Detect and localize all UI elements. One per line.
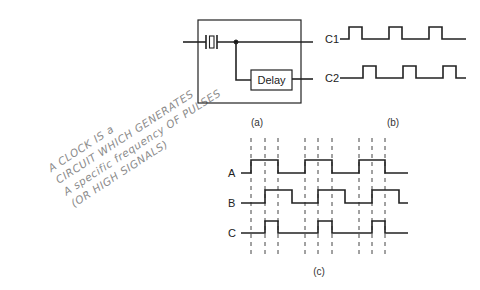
b-waveform [241, 190, 408, 203]
delay-label: Delay [257, 74, 286, 86]
a-label: A [228, 167, 236, 179]
c1-waveform [340, 27, 466, 39]
a-waveform [241, 160, 408, 173]
caption-c: (c) [313, 266, 325, 277]
b-label: B [228, 197, 235, 209]
c2-label: C2 [325, 72, 339, 84]
c1-label: C1 [325, 33, 339, 45]
c-label: C [228, 227, 236, 239]
crystal-icon [206, 35, 217, 49]
caption-b: (b) [387, 117, 399, 128]
c-waveform [241, 221, 408, 233]
delay-feed-line [236, 42, 251, 80]
clock-waveforms [340, 27, 466, 78]
clock-circuit [183, 20, 313, 103]
c2-waveform [340, 66, 466, 78]
clock-diagram: Delay (a) C1 C2 (b) A B C (c) [0, 0, 480, 290]
timing-waveforms [241, 160, 408, 233]
caption-a: (a) [251, 117, 263, 128]
